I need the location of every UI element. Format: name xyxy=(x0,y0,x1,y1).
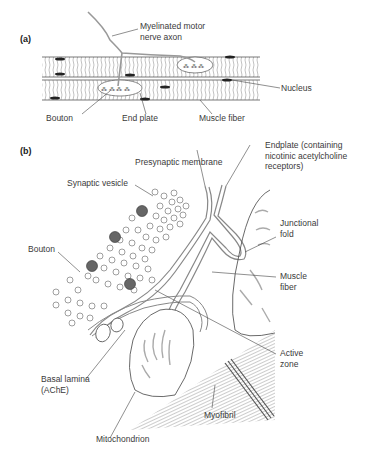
label-endplate-line1: Endplate (containing xyxy=(265,140,347,151)
muscle-fiber-lower xyxy=(42,79,260,101)
end-plate-lower: ⁂ ⁂ ⁂ ⁂ xyxy=(98,80,142,96)
label-nucleus: Nucleus xyxy=(281,83,312,94)
label-axon-line1: Myelinated motor xyxy=(140,21,205,32)
label-endplate-line3: receptors) xyxy=(265,161,347,172)
label-synaptic-vesicle: Synaptic vesicle xyxy=(67,178,128,189)
label-mitochondrion: Mitochondrion xyxy=(96,434,149,445)
mitochondrion xyxy=(129,309,193,397)
label-presynaptic-membrane: Presynaptic membrane xyxy=(135,157,222,168)
label-bouton-b: Bouton xyxy=(28,244,55,255)
label-active-zone: Active zone xyxy=(280,348,303,369)
label-basal-line1: Basal lamina xyxy=(41,374,90,385)
label-endplate-line2: nicotinic acetylcholine xyxy=(265,151,347,162)
label-active-line1: Active xyxy=(280,348,303,359)
label-bouton-a: Bouton xyxy=(46,113,73,124)
label-basal-line2: (AChE) xyxy=(41,385,90,396)
panel-a-tag: (a) xyxy=(20,34,31,44)
label-muscle-fiber-b: Muscle fiber xyxy=(280,271,307,292)
label-muscle-line1: Muscle xyxy=(280,271,307,282)
svg-text:⁂ ⁂ ⁂ ⁂: ⁂ ⁂ ⁂ ⁂ xyxy=(101,86,130,92)
synaptic-vesicles xyxy=(53,189,189,326)
label-axon-line2: nerve axon xyxy=(140,32,205,43)
label-junctional-fold: Junctional fold xyxy=(280,218,318,239)
label-active-line2: zone xyxy=(280,359,303,370)
muscle-fiber-upper xyxy=(42,56,260,78)
panel-b-tag: (b) xyxy=(20,146,32,156)
svg-text:⁂ ⁂ ⁂: ⁂ ⁂ ⁂ xyxy=(183,63,204,69)
label-junctional-line1: Junctional xyxy=(280,218,318,229)
label-endplate-b: Endplate (containing nicotinic acetylcho… xyxy=(265,140,347,172)
label-basal-lamina: Basal lamina (AChE) xyxy=(41,374,90,395)
label-myofibril: Myofibril xyxy=(204,410,236,421)
label-muscle-fiber-a: Muscle fiber xyxy=(199,113,245,124)
label-muscle-line2: fiber xyxy=(280,282,307,293)
label-junctional-line2: fold xyxy=(280,229,318,240)
label-end-plate: End plate xyxy=(122,113,158,124)
label-myelinated-axon: Myelinated motor nerve axon xyxy=(140,21,205,42)
muscle-fiber-b xyxy=(232,190,275,336)
end-plate-upper: ⁂ ⁂ ⁂ xyxy=(177,57,213,73)
small-mitochondria xyxy=(93,316,125,343)
